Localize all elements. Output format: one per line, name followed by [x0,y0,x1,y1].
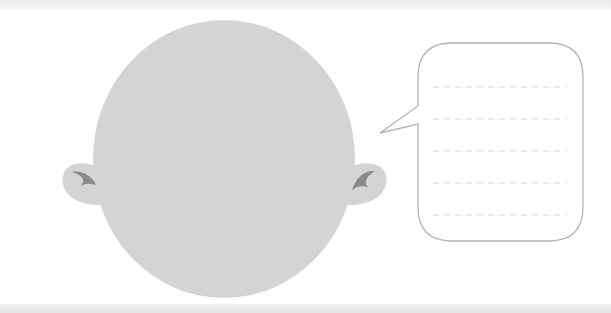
speech-bubble [380,43,583,241]
illustration-canvas [0,0,611,313]
head-circle [93,20,355,298]
